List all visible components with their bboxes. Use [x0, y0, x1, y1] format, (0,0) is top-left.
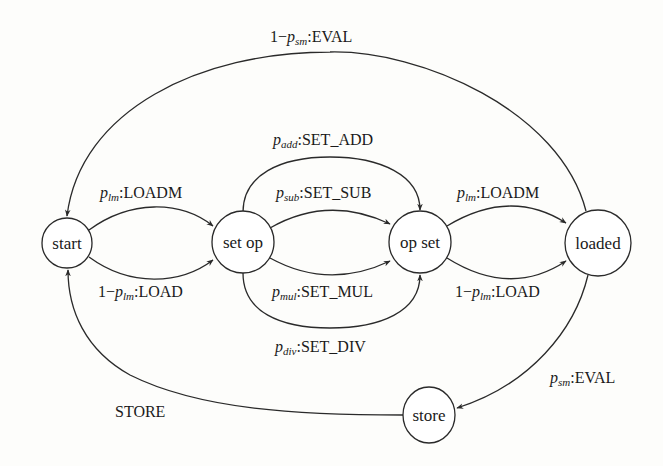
edge-label-set-mul: pmul:SET_MUL [271, 283, 373, 302]
node-loaded: loaded [565, 210, 631, 276]
edge-setop-to-opset-div [243, 273, 420, 328]
node-label: store [412, 406, 445, 425]
edge-label-load-left: 1−plm:LOAD [98, 283, 183, 302]
edge-label-load-right: 1−plm:LOAD [455, 283, 540, 302]
edge-opset-to-loaded-loadm [447, 206, 566, 226]
edge-label-loadm-right: plm:LOADM [456, 184, 539, 203]
node-label: loaded [575, 234, 621, 253]
edge-label-store: STORE [115, 403, 165, 420]
edge-setop-to-opset-sub [270, 210, 390, 228]
node-set-op: set op [212, 211, 274, 273]
node-label: set op [223, 233, 263, 252]
edge-opset-to-loaded-load [447, 258, 566, 279]
edge-start-to-setop-load [89, 257, 213, 279]
edge-start-to-setop-loadm [89, 207, 213, 230]
state-diagram: start set op op set loaded store 1−psm:E… [0, 0, 663, 466]
node-store: store [403, 387, 455, 443]
edge-label-loadm-left: plm:LOADM [99, 184, 182, 203]
edge-label-set-add: padd:SET_ADD [272, 131, 373, 150]
edge-label-eval-bottom: psm:EVAL [549, 369, 615, 388]
node-start: start [42, 218, 92, 268]
edge-setop-to-opset-mul [270, 258, 390, 275]
node-label: op set [400, 233, 440, 252]
node-op-set: op set [389, 211, 451, 273]
diagram-svg: start set op op set loaded store 1−psm:E… [0, 0, 663, 466]
node-label: start [52, 234, 82, 253]
edge-label-eval-top: 1−psm:EVAL [270, 28, 352, 47]
edge-label-set-sub: psub:SET_SUB [275, 184, 371, 203]
edge-label-set-div: pdiv:SET_DIV [274, 338, 366, 357]
